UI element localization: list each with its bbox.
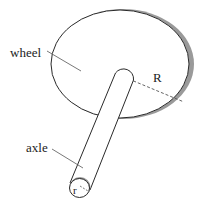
axle-radius-label: r: [73, 184, 77, 196]
wheel-label: wheel: [10, 45, 41, 60]
axle-leader-line: [52, 149, 83, 168]
axle-label: axle: [26, 140, 48, 155]
wheel-and-axle-diagram: wheel R axle r: [0, 0, 203, 208]
wheel-radius-label: R: [153, 70, 162, 85]
